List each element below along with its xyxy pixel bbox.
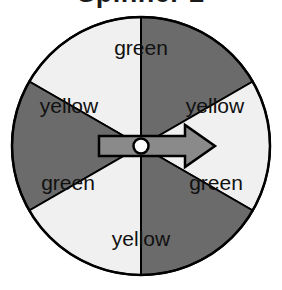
spinner-figure: Spinner 2 greenyellowyellowgreengreenyel… bbox=[0, 0, 282, 290]
sector-label-2: yellow bbox=[186, 94, 245, 117]
spinner-wheel-svg[interactable]: greenyellowyellowgreengreenyellow bbox=[0, 0, 282, 290]
arrow-pivot-icon bbox=[134, 139, 149, 154]
sector-label-3: green bbox=[41, 171, 95, 194]
spinner-wheel[interactable]: greenyellowyellowgreengreenyellow bbox=[0, 0, 282, 290]
sector-label-4: green bbox=[189, 171, 243, 194]
sector-label-0: green bbox=[114, 36, 168, 59]
sector-label-1: yellow bbox=[40, 94, 99, 117]
sector-label-5: yellow bbox=[112, 227, 171, 250]
